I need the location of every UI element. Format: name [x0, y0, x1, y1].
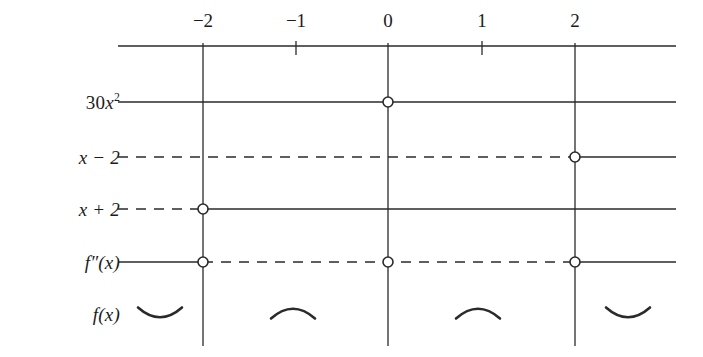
row-f-double-prime-zero-marker-2 [570, 257, 580, 267]
sign-chart-figure: −2−1012 30x2x − 2x + 2f″(x)f(x) [0, 0, 703, 357]
tick-label--1: −1 [286, 11, 306, 30]
row-30x2-label: 30x2 [86, 93, 120, 112]
row-x-minus-2-zero-marker-2 [570, 152, 580, 162]
concavity-arcs-group [138, 308, 650, 319]
row-x-minus-2-label: x − 2 [79, 148, 120, 167]
row-x-plus-2-zero-marker--2 [198, 204, 208, 214]
arc-concave-down-mid-left [271, 309, 315, 319]
x-axis-group [118, 41, 676, 346]
row-f-double-prime-label: f″(x) [85, 253, 120, 272]
tick-label-0: 0 [383, 11, 393, 30]
row-f-label: f(x) [93, 305, 120, 324]
arc-concave-up-right [606, 308, 650, 318]
row-f-double-prime-zero-marker--2 [198, 257, 208, 267]
arc-concave-down-mid-right [456, 309, 500, 319]
tick-label--2: −2 [193, 11, 213, 30]
row-f-double-prime-zero-marker-0 [383, 257, 393, 267]
tick-label-1: 1 [477, 11, 487, 30]
zero-markers-group [198, 97, 580, 267]
row-30x2-zero-marker-0 [383, 97, 393, 107]
tick-label-2: 2 [570, 11, 580, 30]
row-x-plus-2-label: x + 2 [79, 200, 120, 219]
row-lines-group [118, 102, 676, 262]
arc-concave-up-left [138, 308, 182, 318]
